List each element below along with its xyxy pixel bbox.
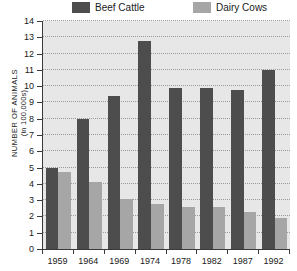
x-tick-label-1982: 1982 <box>202 256 222 266</box>
bar-group <box>46 21 71 249</box>
y-tick-label: 13 <box>24 32 34 42</box>
legend-swatch-dairy-icon <box>193 2 211 13</box>
bar-dairy-1978 <box>182 207 195 249</box>
legend-label-dairy-cows: Dairy Cows <box>216 2 267 13</box>
y-tick-label: 5 <box>29 163 34 173</box>
bar-group <box>138 21 163 249</box>
bar-dairy-1964 <box>89 182 102 249</box>
bar-group <box>262 21 287 249</box>
x-tick-mark <box>166 250 167 254</box>
x-axis-ticks: 19591964196919741978198219871992 <box>42 250 290 271</box>
y-tick-label: 8 <box>29 114 34 124</box>
x-tick-mark <box>42 250 43 254</box>
bar-beef-1964 <box>77 119 90 249</box>
y-tick-label: 0 <box>29 244 34 254</box>
bar-group <box>108 21 133 249</box>
chart-legend: Beef Cattle Dairy Cows <box>0 2 297 16</box>
y-tick-label: 9 <box>29 97 34 107</box>
legend-item-beef-cattle: Beef Cattle <box>72 2 144 13</box>
bar-group <box>169 21 194 249</box>
bar-beef-1959 <box>46 168 59 249</box>
y-tick-label: 4 <box>29 179 34 189</box>
bar-group <box>77 21 102 249</box>
x-tick-label-1987: 1987 <box>233 256 253 266</box>
x-tick-mark <box>73 250 74 254</box>
bar-dairy-1959 <box>58 172 71 249</box>
bar-group <box>231 21 256 249</box>
legend-swatch-beef-icon <box>72 2 90 13</box>
legend-label-beef-cattle: Beef Cattle <box>95 2 144 13</box>
y-tick-label: 3 <box>29 195 34 205</box>
y-tick-label: 10 <box>24 81 34 91</box>
x-tick-label-1959: 1959 <box>47 256 67 266</box>
x-tick-mark <box>227 250 228 254</box>
bar-series-container <box>43 21 290 249</box>
x-tick-label-1964: 1964 <box>78 256 98 266</box>
bar-dairy-1969 <box>120 199 133 249</box>
bar-beef-1987 <box>231 90 244 249</box>
x-tick-mark <box>258 250 259 254</box>
bar-dairy-1974 <box>151 204 164 249</box>
x-tick-label-1969: 1969 <box>109 256 129 266</box>
y-axis-ticks: 01234567891011121314 <box>0 21 42 250</box>
bar-beef-1969 <box>108 96 121 249</box>
y-tick-label: 11 <box>25 65 34 75</box>
bar-dairy-1987 <box>244 212 257 249</box>
legend-item-dairy-cows: Dairy Cows <box>193 2 267 13</box>
x-tick-mark <box>196 250 197 254</box>
y-tick-label: 7 <box>29 130 34 140</box>
x-tick-label-1978: 1978 <box>171 256 191 266</box>
y-tick-label: 12 <box>24 49 34 59</box>
x-tick-label-1974: 1974 <box>140 256 160 266</box>
plot-area <box>42 21 290 250</box>
x-tick-mark <box>135 250 136 254</box>
x-tick-mark <box>289 250 290 254</box>
bar-dairy-1982 <box>213 207 226 249</box>
y-tick-label: 14 <box>24 16 34 26</box>
y-tick-label: 2 <box>29 211 34 221</box>
y-tick-label: 1 <box>29 228 34 238</box>
bar-group <box>200 21 225 249</box>
bar-beef-1992 <box>262 70 275 249</box>
bar-beef-1974 <box>138 41 151 249</box>
x-tick-label-1992: 1992 <box>264 256 284 266</box>
x-tick-mark <box>104 250 105 254</box>
y-tick-label: 6 <box>29 146 34 156</box>
bar-beef-1982 <box>200 88 213 249</box>
bar-beef-1978 <box>169 88 182 249</box>
bar-dairy-1992 <box>275 218 288 249</box>
